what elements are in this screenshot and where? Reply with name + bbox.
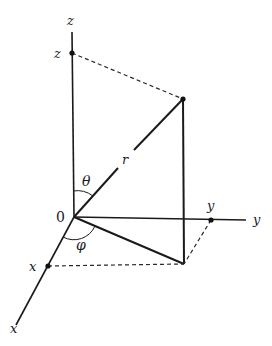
projection-line: [74, 217, 184, 264]
radius-line-lower: [74, 168, 118, 217]
x-marker-dot: [45, 263, 50, 268]
spherical-coordinates-diagram: z z y y x x 0 r θ φ: [0, 0, 272, 346]
x-axis: [16, 217, 74, 325]
y-point-label: y: [206, 198, 215, 213]
y-axis: [74, 217, 246, 220]
radius-line-upper: [134, 99, 183, 150]
y-dashed-line: [184, 220, 211, 264]
origin-label: 0: [56, 209, 65, 225]
phi-label: φ: [76, 237, 86, 253]
x-dashed-line: [48, 264, 184, 266]
theta-arc: [73, 191, 93, 196]
diagram-canvas: z z y y x x 0 r θ φ: [0, 0, 272, 346]
z-axis: [72, 32, 74, 217]
vertical-drop-line: [183, 99, 184, 264]
radius-label: r: [122, 152, 129, 167]
z-point-label: z: [53, 46, 61, 61]
x-axis-label: x: [10, 321, 18, 336]
z-marker-dot: [69, 50, 74, 55]
x-point-label: x: [29, 259, 37, 274]
y-axis-label: y: [252, 212, 261, 227]
z-axis-label: z: [66, 13, 74, 28]
point-p-dot: [180, 96, 185, 101]
y-marker-dot: [208, 217, 213, 222]
z-dashed-line: [72, 53, 183, 99]
theta-label: θ: [82, 173, 91, 189]
